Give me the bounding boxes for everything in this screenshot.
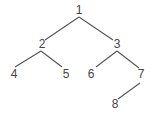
node-4: 4 xyxy=(11,67,18,81)
tree-edges xyxy=(15,17,140,99)
edge-3-7 xyxy=(117,51,139,68)
edge-2-4 xyxy=(15,51,41,67)
node-1: 1 xyxy=(76,3,83,17)
node-6: 6 xyxy=(88,67,95,81)
node-5: 5 xyxy=(63,67,70,81)
node-7: 7 xyxy=(138,67,145,81)
edge-7-8 xyxy=(118,83,140,99)
edge-3-6 xyxy=(96,51,117,67)
node-8: 8 xyxy=(112,97,119,111)
edge-1-2 xyxy=(45,17,79,40)
node-2: 2 xyxy=(39,37,46,51)
node-3: 3 xyxy=(114,37,121,51)
tree-diagram: 12345678 xyxy=(0,0,152,120)
edge-1-3 xyxy=(79,17,113,40)
edge-2-5 xyxy=(41,51,62,67)
